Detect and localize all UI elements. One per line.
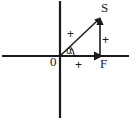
angle-alpha-label: α (66, 46, 73, 56)
plus-mark-horizontal: + (75, 59, 82, 71)
plus-mark-vertical: + (102, 34, 109, 46)
plus-mark-diagonal: + (67, 28, 74, 40)
resultant-vector-label: S (101, 1, 108, 14)
force-vector-label: F (100, 57, 107, 70)
origin-label: 0 (50, 55, 57, 68)
vector-diagram: S F 0 α + + + (0, 0, 131, 119)
diagram-canvas (0, 0, 131, 119)
